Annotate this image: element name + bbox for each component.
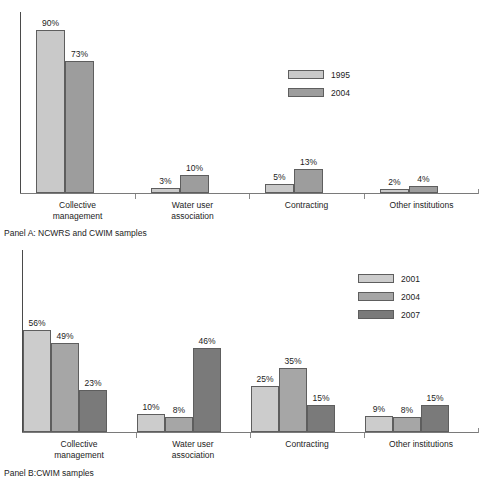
bar-value-label: 56% — [13, 318, 61, 328]
bar-value-label: 46% — [183, 336, 231, 346]
x-axis-category-label: Other institutions — [352, 200, 491, 211]
y-axis-line — [20, 12, 21, 193]
legend-swatch-icon — [288, 88, 324, 97]
bar-1995-3 — [265, 184, 294, 193]
bar-value-label: 10% — [170, 163, 219, 173]
bar-value-label: 73% — [55, 49, 104, 59]
bar-1995-4 — [380, 189, 409, 193]
legend-label: 2007 — [401, 310, 420, 320]
legend-label: 2004 — [331, 88, 350, 98]
legend-swatch-icon — [358, 310, 394, 319]
bar-2004-2 — [165, 417, 193, 432]
bar-value-label: 90% — [26, 18, 75, 28]
legend-label: 2001 — [401, 274, 420, 284]
panel-b-legend: 200120042007 — [358, 272, 420, 326]
legend-item-2001: 2001 — [358, 272, 420, 285]
bar-value-label: 15% — [411, 393, 459, 403]
bar-2007-1 — [79, 390, 107, 432]
bar-value-label: 4% — [399, 174, 448, 184]
bar-value-label: 23% — [69, 378, 117, 388]
bar-value-label: 15% — [297, 393, 345, 403]
x-axis-tick-end — [478, 428, 479, 433]
bar-2007-2 — [193, 348, 221, 432]
bar-2007-4 — [421, 405, 449, 432]
panel-a: 90%73%Collective management3%10%Water us… — [0, 0, 494, 250]
bar-2004-3 — [294, 169, 323, 193]
bar-2007-3 — [307, 405, 335, 432]
x-axis-tick — [136, 433, 137, 438]
x-axis-tick — [364, 194, 365, 199]
panel-b: 56%49%23%Collective management10%8%46%Wa… — [0, 244, 494, 484]
bar-1995-2 — [151, 188, 180, 193]
bar-2001-4 — [365, 416, 393, 432]
x-axis-category-label: Other institutions — [352, 439, 490, 450]
bar-value-label: 35% — [269, 356, 317, 366]
legend-label: 1995 — [331, 70, 350, 80]
bar-2004-1 — [65, 61, 94, 193]
bar-2004-2 — [180, 175, 209, 193]
legend-swatch-icon — [358, 274, 394, 283]
bar-value-label: 49% — [41, 331, 89, 341]
bar-2004-4 — [393, 417, 421, 432]
x-axis-tick — [250, 433, 251, 438]
x-axis-tick — [135, 194, 136, 199]
panel-a-legend: 19952004 — [288, 68, 350, 104]
legend-item-2007: 2007 — [358, 308, 420, 321]
legend-swatch-icon — [358, 292, 394, 301]
figure-root: 90%73%Collective management3%10%Water us… — [0, 0, 494, 484]
x-axis-tick — [249, 194, 250, 199]
legend-item-1995: 1995 — [288, 68, 350, 81]
legend-swatch-icon — [288, 70, 324, 79]
legend-item-2004: 2004 — [358, 290, 420, 303]
bar-value-label: 13% — [284, 157, 333, 167]
panel-a-caption: Panel A: NCWRS and CWIM samples — [4, 228, 147, 239]
bar-2001-3 — [251, 386, 279, 432]
x-axis-tick — [364, 433, 365, 438]
bar-2004-4 — [409, 186, 438, 193]
bar-2001-2 — [137, 414, 165, 432]
legend-item-2004: 2004 — [288, 86, 350, 99]
legend-label: 2004 — [401, 292, 420, 302]
panel-b-caption: Panel B:CWIM samples — [4, 468, 94, 479]
bar-2001-1 — [23, 330, 51, 432]
x-axis-tick-end — [478, 189, 479, 194]
